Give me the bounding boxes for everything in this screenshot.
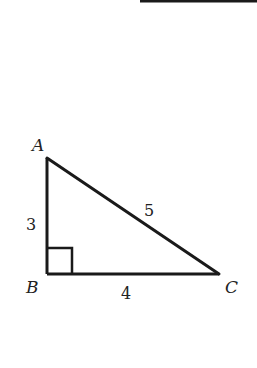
side-label-ac: 5 [144,201,154,220]
vertex-label-a: A [30,135,44,155]
side-label-bc: 4 [121,284,131,303]
side-label-ab: 3 [26,215,36,234]
right-angle-marker [47,248,72,274]
vertex-label-c: C [225,277,238,297]
triangle-diagram: A B C 3 4 5 [0,0,257,368]
vertex-label-b: B [25,277,39,297]
